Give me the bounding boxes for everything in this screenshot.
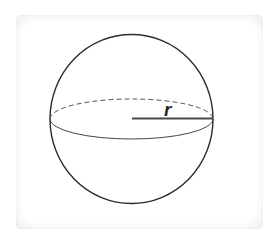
equator-back-dashed (50, 99, 213, 119)
equator-front (50, 119, 213, 139)
sphere-diagram: r (0, 0, 276, 241)
radius-label: r (164, 99, 173, 120)
